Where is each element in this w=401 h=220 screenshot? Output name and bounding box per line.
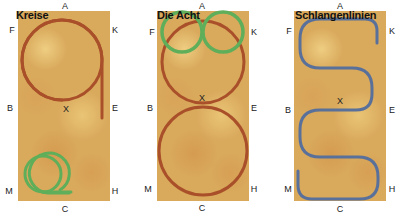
panel-title: Die Acht	[157, 9, 200, 21]
letter-e: E	[249, 103, 259, 113]
small-eight-right-loop	[203, 12, 243, 52]
serpentine-line	[298, 19, 378, 199]
panel-title: Kreise	[16, 9, 48, 21]
letter-m: M	[283, 184, 293, 194]
letter-k: K	[110, 25, 120, 35]
letter-x: X	[335, 96, 345, 106]
figure-eight-tracks	[157, 11, 249, 201]
panel-schlangenlinien: Schlangenlinien A F K B X E M H C	[268, 0, 401, 220]
letter-e: E	[110, 103, 120, 113]
letter-b: B	[145, 103, 155, 113]
letter-a: A	[335, 1, 345, 11]
letter-c: C	[60, 204, 70, 214]
arena	[294, 11, 386, 201]
letter-k: K	[249, 27, 259, 37]
letter-a: A	[197, 1, 207, 11]
letter-h: H	[110, 186, 120, 196]
letter-f: F	[147, 27, 157, 37]
letter-m: M	[143, 184, 153, 194]
letter-x: X	[61, 104, 71, 114]
letter-h: H	[249, 184, 259, 194]
letter-f: F	[284, 26, 294, 36]
letter-b: B	[283, 105, 293, 115]
letter-e: E	[387, 105, 397, 115]
letter-a: A	[60, 1, 70, 11]
letter-c: C	[197, 203, 207, 213]
letter-m: M	[4, 186, 14, 196]
serpentine-track	[294, 11, 386, 201]
panel-kreise: Kreise A F K B X E M H C	[0, 0, 134, 220]
letter-x: X	[197, 93, 207, 103]
lower-eight-loop	[159, 107, 247, 195]
letter-f: F	[7, 25, 17, 35]
letter-k: K	[387, 26, 397, 36]
letter-b: B	[5, 103, 15, 113]
panel-die-acht: Die Acht A F K B X E M H C	[135, 0, 269, 220]
arena	[157, 11, 249, 201]
letter-c: C	[335, 204, 345, 214]
large-circle	[22, 20, 102, 100]
letter-h: H	[387, 184, 397, 194]
